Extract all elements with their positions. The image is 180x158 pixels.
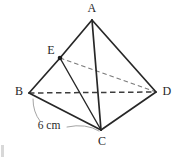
corner-artifact (1, 145, 4, 157)
leader-arc-to-B (33, 99, 40, 121)
tetrahedron-figure: A E B D C 6 cm (0, 0, 180, 158)
vertex-label-C: C (98, 135, 106, 147)
edge-A-E (60, 20, 92, 58)
edge-A-C (92, 20, 101, 130)
hidden-edges-group (29, 58, 156, 93)
edge-C-D (101, 92, 156, 130)
dimension-label-bc: 6 cm (38, 120, 61, 132)
edge-E-B (29, 58, 60, 93)
marked-points-group (58, 56, 63, 61)
vertex-label-B: B (15, 85, 23, 97)
point-E-marker (58, 56, 63, 61)
visible-edges-group (29, 20, 156, 130)
vertex-label-D: D (163, 85, 172, 97)
vertex-label-A: A (88, 2, 97, 14)
edge-B-D-dashed (29, 92, 156, 93)
tetrahedron-svg (0, 0, 180, 158)
vertex-label-E: E (47, 44, 55, 56)
